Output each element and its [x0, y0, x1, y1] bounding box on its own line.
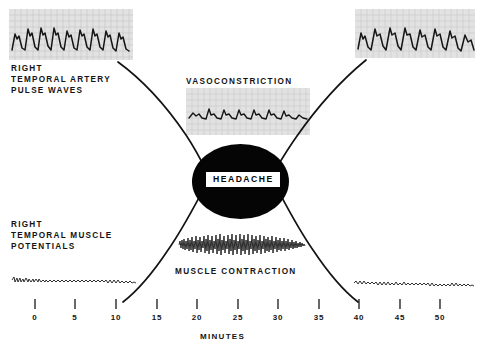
axis-tick-marks [35, 299, 440, 309]
label-right-temporal-artery-pulse-waves: RIGHT TEMPORAL ARTERY PULSE WAVES [11, 63, 111, 97]
axis-tick-label: 40 [354, 313, 365, 322]
axis-tick-label: 20 [192, 313, 203, 322]
label-vasoconstriction: VASOCONSTRICTION [186, 76, 293, 87]
axis-tick-label: 45 [395, 313, 406, 322]
axis-title-minutes: MINUTES [200, 331, 245, 342]
axis-tick-label: 15 [152, 313, 163, 322]
headache-label: HEADACHE [213, 175, 274, 184]
axis-tick-label: 50 [435, 313, 446, 322]
curve-muscle-contraction-right [279, 192, 358, 302]
migraine-physiology-figure: HEADACHE RIGHT TEMPORAL ARTERY PULSE WAV… [0, 0, 481, 353]
axis-tick-label: 5 [72, 313, 77, 322]
axis-tick-label: 35 [314, 313, 325, 322]
label-muscle-contraction: MUSCLE CONTRACTION [175, 266, 297, 277]
curve-muscle-contraction-left [123, 192, 202, 302]
headache-label-box: HEADACHE [205, 171, 281, 188]
axis-tick-label: 25 [233, 313, 244, 322]
axis-tick-label: 10 [111, 313, 122, 322]
axis-tick-label: 30 [273, 313, 284, 322]
axis-tick-label: 0 [32, 313, 37, 322]
label-right-temporal-muscle-potentials: RIGHT TEMPORAL MUSCLE POTENTIALS [11, 219, 112, 253]
